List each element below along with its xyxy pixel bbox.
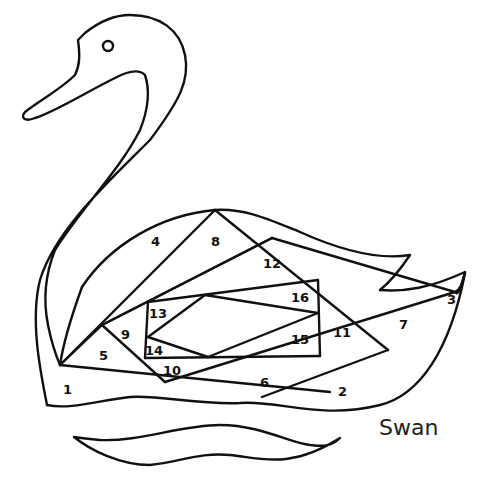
region-labels: 1 2 3 4 5 6 7 8 9 10 11 12 13 14 15 16 [63, 234, 456, 399]
region-6: 6 [260, 375, 269, 390]
body-bottom-outline [47, 273, 465, 411]
region-11: 11 [333, 325, 351, 340]
region-3: 3 [447, 292, 456, 307]
region-2: 2 [338, 384, 347, 399]
region-5: 5 [99, 348, 108, 363]
diagram-title: Swan [379, 415, 438, 440]
region-4: 4 [151, 234, 160, 249]
region-14: 14 [145, 343, 163, 358]
pattern-lines [60, 210, 455, 397]
region-1: 1 [63, 382, 72, 397]
region-15: 15 [291, 332, 309, 347]
water-ripple [74, 425, 340, 465]
region-10: 10 [163, 363, 181, 378]
region-13: 13 [149, 306, 167, 321]
region-12: 12 [263, 256, 281, 271]
region-16: 16 [291, 290, 309, 305]
region-9: 9 [121, 327, 130, 342]
swan-pattern-diagram: 1 2 3 4 5 6 7 8 9 10 11 12 13 14 15 16 S… [0, 0, 490, 480]
region-7: 7 [399, 317, 408, 332]
region-8: 8 [211, 234, 220, 249]
eye-icon [103, 41, 113, 51]
